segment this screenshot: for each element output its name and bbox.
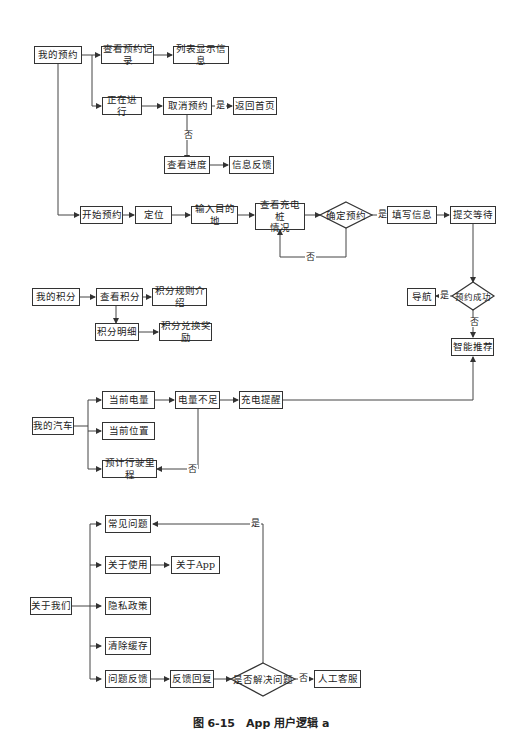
node-current-battery: 当前电量 — [102, 391, 155, 409]
label-booking-success: 预约成功 — [452, 290, 494, 302]
label-problem-solved: 是否解决问题 — [232, 673, 294, 685]
figure-caption: 图 6-15 App 用户逻辑 a — [0, 714, 522, 730]
edge-label-no: 否 — [183, 131, 194, 140]
node-cancel-booking: 取消预约 — [163, 97, 212, 115]
node-feedback: 问题反馈 — [105, 670, 151, 688]
node-input-destination: 输入目的地 — [191, 206, 238, 224]
edge-label-no: 否 — [469, 318, 480, 327]
node-my-car: 我的汽车 — [32, 417, 74, 435]
node-view-charger: 查看充电桩 情况 — [255, 203, 305, 230]
node-about-usage: 关于使用 — [105, 556, 151, 574]
edge-label-no: 否 — [305, 253, 316, 262]
node-view-points: 查看积分 — [96, 288, 143, 306]
node-points-rules: 积分规则介绍 — [152, 288, 207, 306]
edge-label-yes: 是 — [439, 291, 450, 300]
node-my-points: 我的积分 — [32, 288, 80, 306]
node-return-home: 返回首页 — [233, 97, 277, 115]
node-my-booking: 我的预约 — [34, 46, 82, 64]
edge-label-no: 否 — [298, 674, 309, 683]
node-current-location: 当前位置 — [102, 422, 155, 440]
edge-label-yes: 是 — [215, 101, 226, 110]
node-info-feedback: 信息反馈 — [229, 156, 274, 174]
node-start-booking: 开始预约 — [80, 206, 123, 224]
node-charge-reminder: 充电提醒 — [239, 391, 283, 409]
node-list-info: 列表显示信息 — [173, 46, 229, 64]
node-points-detail: 积分明细 — [95, 323, 139, 341]
node-human-service: 人工客服 — [314, 670, 361, 688]
node-fill-info: 填写信息 — [387, 206, 437, 224]
node-smart-recommend: 智能推荐 — [451, 338, 494, 356]
node-view-charger-line2: 情况 — [270, 222, 290, 234]
edge-label-yes: 是 — [250, 519, 261, 528]
node-submit-wait: 提交等待 — [450, 206, 496, 224]
node-estimated-range: 预计行驶里程 — [102, 460, 157, 478]
node-view-records: 查看预约记录 — [101, 46, 154, 64]
node-view-progress: 查看进度 — [164, 156, 210, 174]
node-navigate: 导航 — [407, 288, 436, 306]
node-faq: 常见问题 — [105, 515, 151, 533]
node-about-app: 关于App — [171, 556, 220, 574]
node-feedback-reply: 反馈回复 — [170, 670, 214, 688]
edge-label-no: 否 — [187, 465, 198, 474]
label-confirm-booking: 确定预约 — [322, 209, 370, 221]
node-privacy-policy: 隐私政策 — [105, 597, 151, 615]
node-view-charger-line1: 查看充电桩 — [256, 199, 304, 223]
node-clear-cache: 清除缓存 — [105, 637, 151, 655]
node-locate: 定位 — [135, 206, 172, 224]
node-in-progress: 正在进行 — [102, 97, 142, 115]
node-points-redeem: 积分兑换奖励 — [159, 323, 212, 341]
node-low-battery: 电量不足 — [175, 391, 220, 409]
node-about-us: 关于我们 — [30, 597, 72, 615]
